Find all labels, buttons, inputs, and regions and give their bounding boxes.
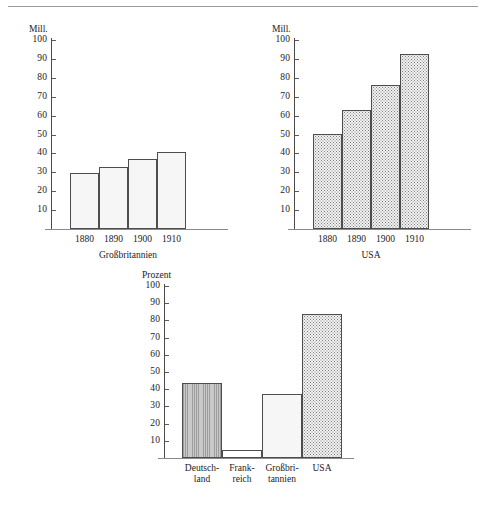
y-axis-tick-label: 20 bbox=[134, 418, 160, 428]
y-axis-tick bbox=[165, 406, 169, 407]
bar bbox=[400, 54, 429, 229]
bar bbox=[182, 383, 222, 458]
y-axis-tick bbox=[165, 338, 169, 339]
y-axis-tick bbox=[52, 153, 56, 154]
bar bbox=[262, 394, 302, 458]
chart-prozent: Prozent100908070605040302010Deutsch-land… bbox=[120, 262, 370, 505]
y-axis-tick-label: 60 bbox=[134, 349, 160, 359]
y-axis-tick bbox=[295, 116, 299, 117]
bar bbox=[157, 152, 186, 229]
y-axis-tick bbox=[52, 78, 56, 79]
x-axis-tick-label-line1: USA bbox=[296, 463, 348, 474]
y-axis-tick bbox=[165, 389, 169, 390]
y-axis-tick bbox=[52, 172, 56, 173]
y-axis-tick-label: 100 bbox=[134, 280, 160, 290]
y-axis-tick-label: 90 bbox=[134, 297, 160, 307]
y-axis-tick-label: 30 bbox=[264, 166, 290, 176]
y-axis-tick bbox=[52, 40, 56, 41]
bar bbox=[371, 85, 400, 229]
figure-page: Mill.10090807060504030201018801890190019… bbox=[0, 0, 486, 505]
bar bbox=[99, 167, 128, 229]
y-axis-tick-label: 30 bbox=[21, 166, 47, 176]
y-axis-tick bbox=[295, 97, 299, 98]
y-axis-tick-label: 100 bbox=[264, 34, 290, 44]
y-axis-tick bbox=[52, 135, 56, 136]
y-axis-tick-label: 50 bbox=[264, 129, 290, 139]
chart-usa: Mill.10090807060504030201018801890190019… bbox=[243, 14, 486, 260]
y-axis-tick-label: 90 bbox=[264, 53, 290, 63]
y-axis-tick bbox=[295, 78, 299, 79]
y-axis-tick bbox=[165, 355, 169, 356]
y-axis-tick-label: 30 bbox=[134, 400, 160, 410]
y-axis-unit-label: Prozent bbox=[142, 270, 171, 280]
y-axis-tick-label: 70 bbox=[21, 91, 47, 101]
y-axis-tick bbox=[52, 116, 56, 117]
y-axis-tick-label: 40 bbox=[264, 147, 290, 157]
y-axis-tick-label: 70 bbox=[264, 91, 290, 101]
y-axis-tick-label: 40 bbox=[21, 147, 47, 157]
y-axis-tick-label: 10 bbox=[264, 204, 290, 214]
x-axis-baseline bbox=[45, 229, 228, 230]
y-axis-tick-label: 90 bbox=[21, 53, 47, 63]
chart-caption: USA bbox=[283, 250, 459, 260]
y-axis-line bbox=[164, 284, 165, 458]
x-axis-tick-label-line2: tannien bbox=[256, 474, 308, 485]
bar bbox=[342, 110, 371, 229]
x-axis-baseline bbox=[158, 458, 354, 459]
bar bbox=[70, 173, 99, 229]
x-axis-baseline bbox=[288, 229, 471, 230]
y-axis-tick bbox=[165, 372, 169, 373]
bar bbox=[128, 159, 157, 229]
bar bbox=[302, 314, 342, 458]
y-axis-tick bbox=[295, 153, 299, 154]
y-axis-tick-label: 10 bbox=[134, 435, 160, 445]
y-axis-tick-label: 20 bbox=[21, 185, 47, 195]
x-axis-tick-label: USA bbox=[296, 463, 348, 474]
y-axis-tick bbox=[295, 40, 299, 41]
y-axis-tick-label: 50 bbox=[134, 366, 160, 376]
y-axis-tick bbox=[52, 191, 56, 192]
y-axis-unit-label: Mill. bbox=[272, 24, 291, 34]
y-axis-tick-label: 60 bbox=[264, 110, 290, 120]
y-axis-tick-label: 80 bbox=[134, 314, 160, 324]
bar bbox=[313, 134, 342, 229]
y-axis-tick-label: 80 bbox=[21, 72, 47, 82]
y-axis-tick-label: 70 bbox=[134, 332, 160, 342]
bar bbox=[222, 450, 262, 458]
top-horizontal-rule bbox=[8, 6, 478, 7]
y-axis-tick bbox=[52, 97, 56, 98]
y-axis-tick-label: 80 bbox=[264, 72, 290, 82]
y-axis-tick bbox=[52, 59, 56, 60]
y-axis-tick-label: 40 bbox=[134, 383, 160, 393]
chart-grossbritannien: Mill.10090807060504030201018801890190019… bbox=[0, 14, 243, 260]
y-axis-tick-label: 20 bbox=[264, 185, 290, 195]
y-axis-tick bbox=[295, 59, 299, 60]
y-axis-tick bbox=[295, 210, 299, 211]
y-axis-tick bbox=[165, 320, 169, 321]
y-axis-tick bbox=[295, 172, 299, 173]
y-axis-tick-label: 60 bbox=[21, 110, 47, 120]
y-axis-line bbox=[51, 38, 52, 229]
y-axis-tick bbox=[295, 135, 299, 136]
y-axis-tick-label: 100 bbox=[21, 34, 47, 44]
y-axis-tick bbox=[165, 441, 169, 442]
y-axis-tick bbox=[295, 191, 299, 192]
y-axis-tick bbox=[52, 210, 56, 211]
x-axis-tick-label: 1910 bbox=[151, 234, 192, 244]
y-axis-tick bbox=[165, 286, 169, 287]
y-axis-unit-label: Mill. bbox=[29, 24, 48, 34]
y-axis-tick-label: 50 bbox=[21, 129, 47, 139]
x-axis-tick-label: 1910 bbox=[394, 234, 435, 244]
y-axis-tick bbox=[165, 424, 169, 425]
y-axis-tick-label: 10 bbox=[21, 204, 47, 214]
chart-caption: Großbritannien bbox=[40, 250, 216, 260]
y-axis-line bbox=[294, 38, 295, 229]
y-axis-tick bbox=[165, 303, 169, 304]
